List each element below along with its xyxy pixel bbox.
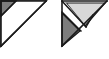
right-triangle-figure — [62, 1, 107, 46]
left-triangle-figure — [1, 1, 46, 46]
figure-canvas — [0, 0, 109, 59]
triangle-dissection-diagram — [0, 0, 109, 59]
